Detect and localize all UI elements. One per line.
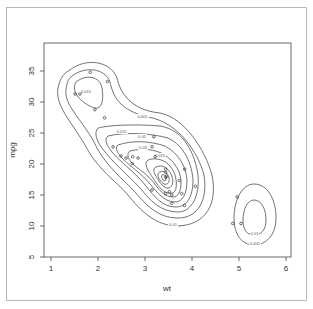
contour-label: 0.015 <box>116 129 127 134</box>
contour-label: 0.03 <box>139 145 148 150</box>
contour-label: 0.005 <box>250 241 261 246</box>
x-axis <box>51 257 286 261</box>
y-tick-label: 30 <box>27 97 36 106</box>
contour-label: 0.005 <box>137 114 148 119</box>
x-tick-label: 6 <box>284 264 289 273</box>
x-tick-label: 3 <box>143 264 148 273</box>
x-tick-labels: 1 2 3 4 5 6 <box>49 264 289 273</box>
x-tick-label: 1 <box>49 264 54 273</box>
x-tick-label: 2 <box>96 264 101 273</box>
contour-label: 0.01 <box>251 231 260 236</box>
y-axis-title: mpg <box>8 142 17 158</box>
y-tick-label: 10 <box>27 221 36 230</box>
y-tick-label: 20 <box>27 159 36 168</box>
x-tick-label: 4 <box>190 264 195 273</box>
y-axis <box>40 71 44 257</box>
contour-label: 0.015 <box>81 89 92 94</box>
x-tick-label: 5 <box>237 264 242 273</box>
contour-label: 0.01 <box>169 222 178 227</box>
x-axis-title: wt <box>162 284 172 293</box>
y-tick-label: 25 <box>27 128 36 137</box>
y-tick-label: 5 <box>27 254 36 259</box>
y-tick-labels: 5 10 15 20 25 30 35 <box>27 66 36 259</box>
contour-label: 0.02 <box>138 134 147 139</box>
contour-plot: 1 2 3 4 5 6 wt 5 10 15 20 25 30 35 mpg <box>0 0 313 309</box>
y-tick-label: 15 <box>27 190 36 199</box>
y-tick-label: 35 <box>27 66 36 75</box>
contour-lines <box>58 62 214 226</box>
data-points <box>74 71 243 225</box>
